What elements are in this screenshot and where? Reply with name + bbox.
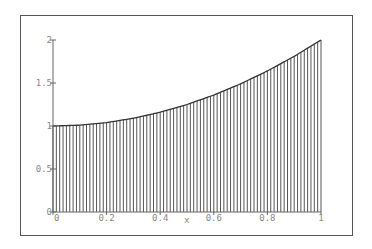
y-tick-label: 0.5 bbox=[36, 164, 52, 174]
area-chart: 00.511.52 00.20.40.60.81 x bbox=[0, 0, 372, 249]
x-axis-label: x bbox=[184, 215, 190, 225]
x-tick-label: 0 bbox=[54, 213, 59, 223]
hatch-fill bbox=[53, 40, 321, 212]
y-tick-label: 1.5 bbox=[36, 78, 52, 88]
x-tick-label: 1 bbox=[318, 213, 323, 223]
x-tick-label: 0.2 bbox=[98, 213, 114, 223]
x-tick-label: 0.4 bbox=[152, 213, 168, 223]
y-tick-label: 0 bbox=[47, 207, 52, 217]
x-tick-label: 0.6 bbox=[206, 213, 222, 223]
x-tick-label: 0.8 bbox=[259, 213, 275, 223]
y-tick-label: 1 bbox=[47, 121, 52, 131]
y-tick-label: 2 bbox=[47, 35, 52, 45]
